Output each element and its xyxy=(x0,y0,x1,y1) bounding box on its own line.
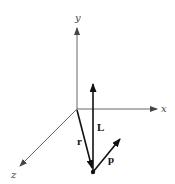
z-axis xyxy=(20,109,77,166)
vector-L-label: L xyxy=(97,121,104,133)
vector-p xyxy=(93,139,120,172)
vector-p-label: p xyxy=(108,153,114,165)
vector-r-label: r xyxy=(77,135,82,147)
z-axis-label: z xyxy=(10,169,17,180)
y-axis-label: y xyxy=(74,12,81,23)
angular-momentum-diagram: y x z L r p xyxy=(0,0,175,184)
x-axis-label: x xyxy=(161,103,167,114)
particle-point xyxy=(91,170,95,174)
